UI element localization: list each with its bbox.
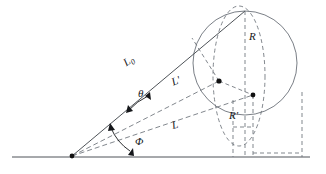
geometry-figure: L0 L' L R R' θ Φ bbox=[0, 0, 326, 174]
perspective-circle-dashed bbox=[213, 6, 265, 146]
phi-arrow-head-lower bbox=[128, 148, 134, 156]
ray-L-dashed bbox=[72, 95, 253, 156]
theta-arrow-head-lower bbox=[145, 92, 151, 100]
large-circle-center-point bbox=[216, 78, 221, 83]
ray-L-prime-dashed bbox=[72, 81, 219, 156]
label-R: R bbox=[249, 31, 256, 42]
small-circle-center-point bbox=[251, 93, 256, 98]
label-R-prime-base: R bbox=[229, 109, 236, 121]
label-R-prime-mark: ' bbox=[236, 109, 238, 121]
cone-apex-point bbox=[70, 154, 75, 159]
label-theta: θ bbox=[138, 88, 143, 99]
radius-R-prime-dashed bbox=[219, 81, 253, 95]
phi-arrow-head-upper bbox=[108, 123, 115, 131]
label-phi: Φ bbox=[135, 136, 143, 147]
figure-canvas bbox=[0, 0, 326, 174]
label-R-prime: R' bbox=[229, 110, 238, 121]
